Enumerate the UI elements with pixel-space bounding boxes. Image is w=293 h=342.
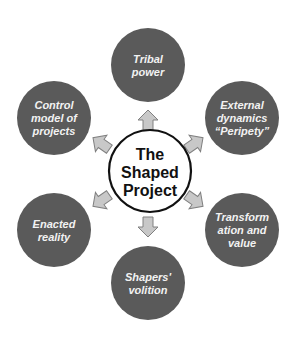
satellite-label-line: Tribal [133, 53, 164, 65]
satellite-shapers-volition: Shapers'volition [111, 246, 185, 320]
satellite-label-line: Enacted [33, 218, 76, 230]
satellite-label-line: “Peripety” [215, 125, 270, 137]
satellite-label-line: projects [32, 125, 76, 137]
satellite-label-line: power [131, 66, 165, 78]
satellite-label-line: value [228, 237, 256, 249]
arrow-icon [87, 129, 115, 157]
satellite-label-line: Control [34, 99, 74, 111]
center-label-line-1: The [136, 146, 165, 163]
center-node: The Shaped Project [109, 130, 191, 212]
center-label-line-3: Project [123, 182, 178, 199]
satellite-label-line: Transform [215, 211, 269, 223]
satellite-label-line: ation and [218, 224, 267, 236]
arrow-icon [87, 187, 115, 215]
satellite-external-dynamics: Externaldynamics“Peripety” [205, 81, 279, 155]
satellite-label-line: dynamics [217, 112, 268, 124]
satellite-tribal-power: Tribalpower [111, 28, 185, 102]
satellite-label-line: External [220, 99, 264, 111]
arrow-icon [138, 110, 158, 130]
shaped-project-diagram: TribalpowerExternaldynamics“Peripety”Tra… [0, 0, 293, 342]
satellite-control-model: Controlmodel ofprojects [17, 81, 91, 155]
satellite-transformation-and-value: Transformation andvalue [205, 193, 279, 267]
satellite-label-line: reality [38, 231, 71, 243]
satellite-label-line: volition [128, 284, 167, 296]
arrow-icon [138, 217, 158, 237]
satellite-label-line: Shapers' [125, 271, 171, 283]
satellite-enacted-reality: Enactedreality [17, 193, 91, 267]
center-label-line-2: Shaped [121, 164, 179, 181]
satellite-label-line: model of [31, 112, 78, 124]
